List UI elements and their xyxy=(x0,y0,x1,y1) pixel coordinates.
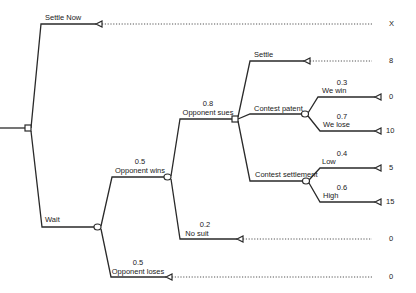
terminal-icon xyxy=(375,128,381,134)
label-we-lose: We lose xyxy=(323,120,350,129)
label-high: High xyxy=(323,191,338,200)
edge-low xyxy=(309,168,375,180)
terminal-icon xyxy=(237,236,243,242)
label-opponent-loses: Opponent loses xyxy=(112,267,165,276)
chance-node-wait xyxy=(94,224,101,230)
payoff-low: 5 xyxy=(389,163,393,172)
payoff-opponent-loses: 0 xyxy=(389,272,393,281)
prob-opponent-wins: 0.5 xyxy=(135,157,145,166)
prob-opponent-loses: 0.5 xyxy=(133,258,143,267)
prob-low: 0.4 xyxy=(337,149,347,158)
terminal-icon xyxy=(375,165,381,171)
decision-node-root xyxy=(25,125,31,131)
payoff-we-lose: 10 xyxy=(386,126,394,135)
label-settle-now: Settle Now xyxy=(45,13,82,22)
edge-wait xyxy=(31,131,94,227)
payoff-settle: 8 xyxy=(389,56,393,65)
label-we-win: We win xyxy=(322,86,346,95)
label-settle: Settle xyxy=(254,50,273,59)
edge-we-win xyxy=(308,97,375,113)
label-contest-patent: Contest patent xyxy=(254,104,304,113)
label-contest-settlement: Contest settlement xyxy=(255,170,318,179)
terminal-icon xyxy=(96,21,102,27)
terminal-icon xyxy=(375,94,381,100)
terminal-icon xyxy=(304,58,310,64)
edge-settle-now xyxy=(31,24,96,128)
payoff-settle-now: X xyxy=(389,19,394,28)
label-opponent-sues: Opponent sues xyxy=(183,108,234,117)
edge-opponent-sues xyxy=(171,119,232,176)
edge-opponent-wins xyxy=(101,177,164,226)
decision-tree: Settle Now Wait 0.5 Opponent wins 0.5 Op… xyxy=(0,0,416,293)
label-no-suit: No suit xyxy=(185,229,209,238)
payoff-high: 15 xyxy=(386,197,394,206)
prob-no-suit: 0.2 xyxy=(200,220,210,229)
payoff-we-win: 0 xyxy=(389,92,393,101)
prob-opponent-sues: 0.8 xyxy=(203,99,213,108)
label-wait: Wait xyxy=(45,215,61,224)
terminal-icon xyxy=(166,274,172,280)
terminal-icon xyxy=(375,199,381,205)
chance-node-opponent-wins xyxy=(164,174,171,180)
label-low: Low xyxy=(322,157,336,166)
label-opponent-wins: Opponent wins xyxy=(115,166,165,175)
payoff-no-suit: 0 xyxy=(389,234,393,243)
edge-contest-patent xyxy=(238,114,301,119)
